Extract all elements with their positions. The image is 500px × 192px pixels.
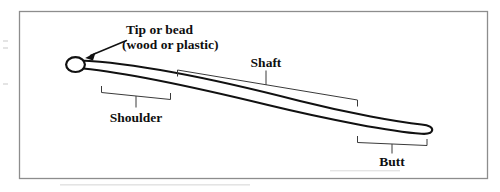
butt-bracket	[358, 136, 428, 154]
shoulder-bracket	[102, 86, 171, 108]
stick-tip-bead	[66, 57, 85, 72]
tip-callout-arrow	[85, 41, 126, 61]
drumstick-diagram: Tip or bead (wood or plastic) Shaft Shou…	[0, 0, 500, 192]
label-shaft: Shaft	[251, 55, 282, 70]
label-tip-line2: (wood or plastic)	[122, 37, 219, 52]
diagram-canvas: Tip or bead (wood or plastic) Shaft Shou…	[0, 0, 500, 192]
label-tip-line1: Tip or bead	[126, 22, 194, 37]
label-shoulder: Shoulder	[110, 110, 163, 125]
label-butt: Butt	[379, 154, 405, 169]
